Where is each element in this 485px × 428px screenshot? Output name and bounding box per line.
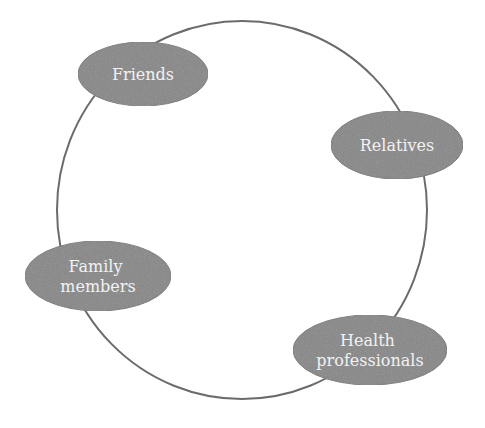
node-label-friends: Friends — [112, 65, 174, 84]
label-line: Family — [68, 257, 122, 276]
node-health-professionals: Health professionals — [293, 315, 447, 385]
node-label-family-members: Family members — [60, 257, 135, 296]
label-line: professionals — [316, 351, 423, 370]
label-line: Health — [340, 331, 395, 350]
node-ellipse — [25, 241, 171, 311]
node-ellipse — [293, 315, 447, 385]
label-line: Relatives — [360, 136, 434, 155]
node-label-relatives: Relatives — [360, 136, 434, 155]
label-line: members — [60, 277, 135, 296]
support-network-diagram: Friends Relatives Family members Health … — [0, 0, 485, 428]
node-relatives: Relatives — [331, 111, 463, 179]
node-family-members: Family members — [25, 241, 171, 311]
node-friends: Friends — [78, 42, 208, 106]
label-line: Friends — [112, 65, 174, 84]
